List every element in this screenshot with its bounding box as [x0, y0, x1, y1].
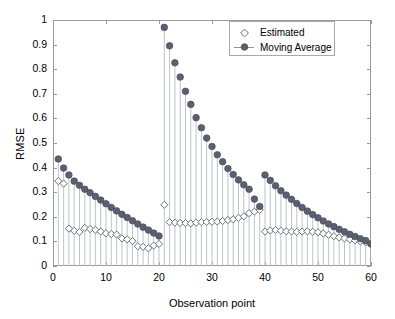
- legend-line-moving-average: [234, 47, 254, 48]
- plot-area: [0, 0, 395, 319]
- series-estimated: [55, 178, 375, 252]
- marker-moving-average: [156, 233, 163, 240]
- marker-moving-average: [225, 165, 232, 172]
- legend-label-estimated: Estimated: [260, 27, 304, 38]
- marker-moving-average: [55, 156, 62, 163]
- marker-moving-average: [235, 177, 242, 184]
- marker-moving-average: [60, 165, 67, 172]
- diamond-open-icon: [240, 28, 249, 37]
- marker-moving-average: [177, 74, 184, 81]
- marker-moving-average: [230, 171, 237, 178]
- marker-moving-average: [272, 183, 279, 190]
- legend-item-estimated: Estimated: [234, 25, 334, 39]
- figure-canvas: RMSE Observation point 00.10.20.30.40.50…: [0, 0, 395, 319]
- legend-label-moving-average: Moving Average: [260, 42, 332, 53]
- marker-moving-average: [219, 158, 226, 165]
- legend: Estimated Moving Average: [229, 21, 335, 56]
- series-moving-average: [55, 24, 374, 247]
- marker-moving-average: [246, 186, 253, 193]
- marker-moving-average: [198, 124, 205, 131]
- marker-moving-average: [368, 241, 375, 248]
- marker-moving-average: [182, 88, 189, 95]
- marker-moving-average: [188, 101, 195, 108]
- marker-moving-average: [214, 152, 221, 159]
- marker-moving-average: [241, 182, 248, 189]
- marker-moving-average: [203, 135, 210, 142]
- legend-line-estimated: [234, 31, 254, 33]
- marker-moving-average: [209, 143, 216, 150]
- marker-moving-average: [166, 43, 173, 50]
- legend-item-moving-average: Moving Average: [234, 40, 334, 54]
- marker-moving-average: [262, 172, 269, 179]
- marker-moving-average: [66, 172, 73, 179]
- marker-moving-average: [256, 203, 263, 210]
- marker-moving-average: [172, 60, 179, 67]
- marker-moving-average: [278, 187, 285, 194]
- marker-moving-average: [267, 177, 274, 184]
- circle-filled-icon: [240, 43, 249, 52]
- marker-moving-average: [251, 196, 258, 203]
- marker-moving-average: [193, 114, 200, 121]
- marker-estimated: [161, 201, 168, 208]
- marker-moving-average: [161, 24, 168, 31]
